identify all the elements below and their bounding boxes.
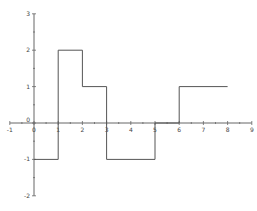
x-tick-label: -1 [7, 126, 13, 133]
step-chart: -10123456789321-1-20 [0, 0, 257, 211]
x-tick-label: 8 [226, 126, 230, 133]
y-tick-label: 3 [26, 10, 30, 17]
step-line [34, 50, 228, 159]
x-tick-label: 9 [250, 126, 254, 133]
y-tick-label: 1 [26, 83, 30, 90]
origin-label: 0 [26, 116, 30, 123]
x-tick-label: 0 [32, 126, 36, 133]
x-tick-label: 4 [129, 126, 133, 133]
y-tick-label: -1 [24, 155, 30, 162]
x-tick-label: 7 [201, 126, 205, 133]
x-tick-label: 2 [80, 126, 84, 133]
y-tick-label: -2 [24, 192, 30, 199]
y-tick-label: 2 [26, 46, 30, 53]
x-tick-label: 6 [177, 126, 181, 133]
